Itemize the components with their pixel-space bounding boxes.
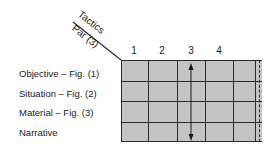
grid-line xyxy=(148,60,149,142)
column-header-2: 2 xyxy=(152,45,172,56)
grid-line xyxy=(233,60,234,142)
grid-line xyxy=(121,60,122,142)
grid-line xyxy=(205,60,206,142)
column-header-3: 3 xyxy=(181,45,201,56)
column-header-1: 1 xyxy=(124,45,144,56)
double-arrow-icon xyxy=(185,62,197,142)
grid-line xyxy=(255,60,256,142)
row-label-material: Material – Fig. (3) xyxy=(19,107,93,118)
continuation-dashed-line xyxy=(259,60,260,142)
row-label-narrative: Narrative xyxy=(19,127,58,138)
row-label-objective: Objective – Fig. (1) xyxy=(19,68,99,79)
column-header-4: 4 xyxy=(209,45,229,56)
row-label-situation: Situation – Fig. (2) xyxy=(19,88,97,99)
grid-line xyxy=(177,60,178,142)
